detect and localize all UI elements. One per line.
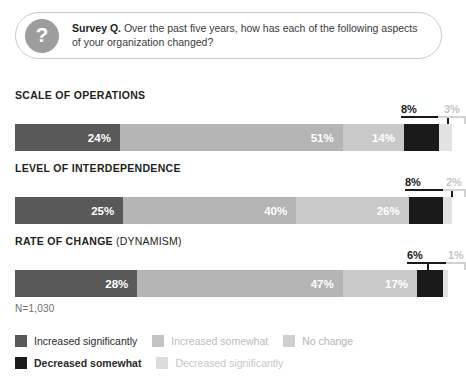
legend-item-increased-somewhat[interactable]: Increased somewhat xyxy=(152,335,268,347)
segment-value: 26% xyxy=(377,205,409,217)
legend-swatch-icon xyxy=(283,335,295,347)
legend-label: Decreased somewhat xyxy=(34,357,141,369)
bar-segment-increased-somewhat: 40% xyxy=(123,197,296,224)
callout-row: 6% 1% xyxy=(15,248,452,270)
bar-segment-decreased-somewhat: 8% xyxy=(404,124,439,151)
legend-label: No change xyxy=(302,335,353,347)
legend-label: Increased significantly xyxy=(34,335,137,347)
segment-value: 51% xyxy=(311,132,343,144)
bar-segment-no-change: 17% xyxy=(343,270,417,297)
bar-segment-decreased-significantly: 3% xyxy=(439,124,452,151)
legend-label: Decreased significantly xyxy=(175,357,283,369)
bar-segment-increased-significantly: 28% xyxy=(15,270,137,297)
bar-group-level-of-interdependence: LEVEL OF INTERDEPENDENCE 8% 2% 25% 40% 2… xyxy=(15,161,452,224)
callout-value: 8% xyxy=(401,104,417,115)
bar-segment-decreased-somewhat: 8% xyxy=(409,197,444,224)
group-label-main: SCALE OF OPERATIONS xyxy=(15,89,145,101)
stacked-bar: 25% 40% 26% 8% 2% xyxy=(15,197,452,224)
bar-group-scale-of-operations: SCALE OF OPERATIONS 8% 3% 24% 51% 14% 8%… xyxy=(15,88,452,151)
callout-decreased-significantly: 2% xyxy=(443,175,466,197)
callout-decreased-somewhat: 6% xyxy=(407,248,451,270)
segment-value: 14% xyxy=(372,132,404,144)
survey-question-lead: Survey Q. xyxy=(72,22,121,34)
callout-value: 6% xyxy=(407,250,423,261)
legend-item-decreased-significantly[interactable]: Decreased significantly xyxy=(156,357,283,369)
legend-row: Increased significantly Increased somewh… xyxy=(15,330,445,352)
sample-size-note: N=1,030 xyxy=(15,303,55,314)
legend-item-no-change[interactable]: No change xyxy=(283,335,353,347)
group-label-main: LEVEL OF INTERDEPENDENCE xyxy=(15,162,181,174)
question-mark-icon: ? xyxy=(25,19,59,53)
bar-segment-increased-somewhat: 47% xyxy=(137,270,342,297)
segment-value: 17% xyxy=(385,278,417,290)
callout-row: 8% 3% xyxy=(15,102,452,124)
segment-value: 24% xyxy=(88,132,120,144)
legend-swatch-icon xyxy=(15,357,27,369)
stacked-bar: 28% 47% 17% 6% 1% xyxy=(15,270,452,297)
group-label: RATE OF CHANGE (DYNAMISM) xyxy=(15,234,452,248)
callout-value: 1% xyxy=(448,250,464,261)
legend-swatch-icon xyxy=(152,335,164,347)
bar-segment-increased-significantly: 25% xyxy=(15,197,123,224)
bar-segment-no-change: 14% xyxy=(343,124,404,151)
bar-segment-decreased-somewhat: 6% xyxy=(417,270,443,297)
legend-item-decreased-somewhat[interactable]: Decreased somewhat xyxy=(15,357,141,369)
bar-segment-increased-somewhat: 51% xyxy=(120,124,343,151)
callout-decreased-significantly: 1% xyxy=(446,248,466,270)
group-label: LEVEL OF INTERDEPENDENCE xyxy=(15,161,452,175)
chart-legend: Increased significantly Increased somewh… xyxy=(15,330,445,374)
callout-value: 8% xyxy=(405,177,421,188)
legend-swatch-icon xyxy=(156,357,168,369)
stacked-bar: 24% 51% 14% 8% 3% xyxy=(15,124,452,151)
legend-item-increased-significantly[interactable]: Increased significantly xyxy=(15,335,137,347)
bar-group-rate-of-change: RATE OF CHANGE (DYNAMISM) 6% 1% 28% 47% … xyxy=(15,234,452,297)
group-label-main: RATE OF CHANGE xyxy=(15,235,113,247)
legend-label: Increased somewhat xyxy=(171,335,268,347)
group-label: SCALE OF OPERATIONS xyxy=(15,88,452,102)
bar-segment-increased-significantly: 24% xyxy=(15,124,120,151)
segment-value: 40% xyxy=(264,205,296,217)
legend-swatch-icon xyxy=(15,335,27,347)
segment-value: 47% xyxy=(311,278,343,290)
survey-question-body: Over the past five years, how has each o… xyxy=(72,22,418,48)
callout-decreased-significantly: 3% xyxy=(438,102,466,124)
segment-value: 28% xyxy=(105,278,137,290)
bar-segment-no-change: 26% xyxy=(296,197,408,224)
survey-question-text: Survey Q. Over the past five years, how … xyxy=(72,22,427,49)
callout-value: 3% xyxy=(444,104,460,115)
bar-segment-decreased-significantly: 2% xyxy=(443,197,452,224)
survey-question-card: ? Survey Q. Over the past five years, ho… xyxy=(15,12,442,59)
callout-value: 2% xyxy=(446,177,462,188)
segment-value: 25% xyxy=(91,205,123,217)
callout-row: 8% 2% xyxy=(15,175,452,197)
legend-row: Decreased somewhat Decreased significant… xyxy=(15,352,445,374)
bar-segment-decreased-significantly: 1% xyxy=(443,270,447,297)
group-label-sub: (DYNAMISM) xyxy=(113,235,182,247)
